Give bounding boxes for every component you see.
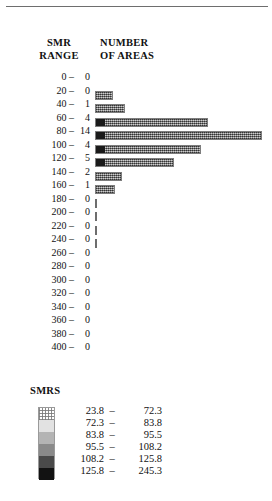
histogram-row: 100 –4 xyxy=(0,138,272,152)
legend-range-low: 23.8 xyxy=(62,405,104,417)
histogram-row: 400 –0 xyxy=(0,340,272,354)
histogram-row: 20 –0 xyxy=(0,84,272,98)
legend-range-dash: – xyxy=(104,441,120,453)
histogram-row: 360 –0 xyxy=(0,313,272,327)
legend-range-low: 125.8 xyxy=(62,465,104,477)
legend-color-strip xyxy=(38,407,55,479)
legend-swatch xyxy=(39,468,54,480)
heading-number-line1: NUMBER xyxy=(100,36,190,49)
histogram-rows: 0 –020 –040 –160 –480 –14100 –4120 –5140… xyxy=(0,70,272,360)
heading-smr-range-line1: SMR xyxy=(28,36,90,49)
histogram-row: 380 –0 xyxy=(0,327,272,341)
legend-range-high: 95.5 xyxy=(120,429,162,441)
row-count-value: 0 xyxy=(58,259,90,273)
row-count-value: 0 xyxy=(58,246,90,260)
legend-range-high: 72.3 xyxy=(120,405,162,417)
row-count-value: 0 xyxy=(58,300,90,314)
legend-swatch xyxy=(39,420,54,432)
histogram-row: 60 –4 xyxy=(0,111,272,125)
row-count-value: 4 xyxy=(58,138,90,152)
histogram-row: 80 –14 xyxy=(0,124,272,138)
legend-class-row: 108.2–125.8 xyxy=(62,453,212,465)
row-count-value: 14 xyxy=(58,124,90,138)
top-divider-rule xyxy=(6,6,268,7)
row-count-value: 4 xyxy=(58,111,90,125)
histogram-row: 200 –0 xyxy=(0,205,272,219)
histogram-row: 0 –0 xyxy=(0,70,272,84)
row-count-value: 0 xyxy=(58,84,90,98)
legend-range-dash: – xyxy=(104,429,120,441)
legend-range-dash: – xyxy=(104,405,120,417)
legend-range-high: 125.8 xyxy=(120,453,162,465)
legend-swatch xyxy=(39,432,54,444)
row-count-value: 1 xyxy=(58,97,90,111)
row-count-value: 0 xyxy=(58,192,90,206)
heading-number-of-areas: NUMBER OF AREAS xyxy=(100,36,190,62)
legend-class-row: 125.8–245.3 xyxy=(62,465,212,477)
legend-range-low: 72.3 xyxy=(62,417,104,429)
histogram-row: 280 –0 xyxy=(0,259,272,273)
row-count-value: 5 xyxy=(58,151,90,165)
column-headings: SMR RANGE NUMBER OF AREAS xyxy=(0,36,272,66)
legend-range-dash: – xyxy=(104,453,120,465)
row-count-value: 0 xyxy=(58,70,90,84)
legend-range-low: 95.5 xyxy=(62,441,104,453)
legend-class-list: 23.8–72.372.3–83.883.8–95.595.5–108.2108… xyxy=(62,405,212,477)
row-count-value: 0 xyxy=(58,219,90,233)
legend-swatch xyxy=(39,456,54,468)
row-count-value: 0 xyxy=(58,232,90,246)
histogram-figure: SMR RANGE NUMBER OF AREAS 0 –020 –040 –1… xyxy=(0,0,272,501)
legend-title: SMRS xyxy=(30,385,60,396)
histogram-row: 40 –1 xyxy=(0,97,272,111)
histogram-row: 140 –2 xyxy=(0,165,272,179)
histogram-row: 300 –0 xyxy=(0,273,272,287)
heading-number-line2: OF AREAS xyxy=(100,49,190,62)
legend-range-high: 245.3 xyxy=(120,465,162,477)
legend-class-row: 83.8–95.5 xyxy=(62,429,212,441)
legend-range-high: 108.2 xyxy=(120,441,162,453)
legend-range-dash: – xyxy=(104,465,120,477)
legend-class-row: 72.3–83.8 xyxy=(62,417,212,429)
legend: SMRS 23.8–72.372.3–83.883.8–95.595.5–108… xyxy=(0,385,272,495)
row-count-value: 0 xyxy=(58,205,90,219)
legend-swatch xyxy=(39,444,54,456)
row-count-value: 1 xyxy=(58,178,90,192)
histogram-row: 220 –0 xyxy=(0,219,272,233)
heading-smr-range: SMR RANGE xyxy=(28,36,90,62)
histogram-row: 180 –0 xyxy=(0,192,272,206)
legend-range-low: 108.2 xyxy=(62,453,104,465)
histogram-row: 240 –0 xyxy=(0,232,272,246)
row-count-value: 0 xyxy=(58,273,90,287)
legend-range-low: 83.8 xyxy=(62,429,104,441)
row-count-value: 2 xyxy=(58,165,90,179)
row-count-value: 0 xyxy=(58,327,90,341)
legend-range-dash: – xyxy=(104,417,120,429)
legend-range-high: 83.8 xyxy=(120,417,162,429)
legend-swatch xyxy=(39,408,54,420)
heading-smr-range-line2: RANGE xyxy=(28,49,90,62)
histogram-row: 160 –1 xyxy=(0,178,272,192)
legend-class-row: 95.5–108.2 xyxy=(62,441,212,453)
histogram-row: 320 –0 xyxy=(0,286,272,300)
row-count-value: 0 xyxy=(58,313,90,327)
row-count-value: 0 xyxy=(58,286,90,300)
histogram-row: 340 –0 xyxy=(0,300,272,314)
row-count-value: 0 xyxy=(58,340,90,354)
histogram-row: 260 –0 xyxy=(0,246,272,260)
legend-class-row: 23.8–72.3 xyxy=(62,405,212,417)
histogram-row: 120 –5 xyxy=(0,151,272,165)
